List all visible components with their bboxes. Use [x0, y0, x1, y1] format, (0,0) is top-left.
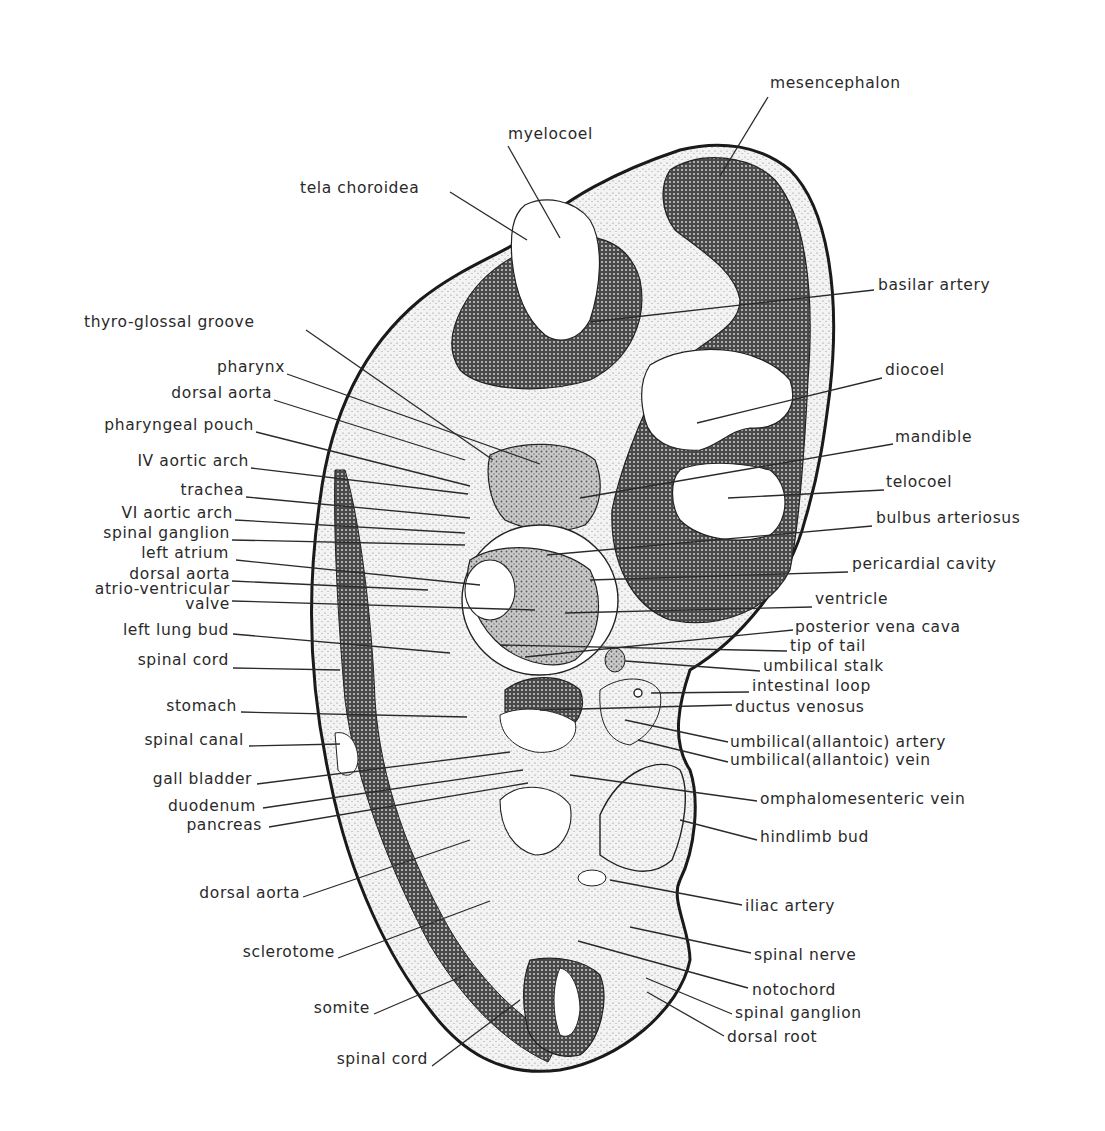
label-basilar-artery: basilar artery	[878, 276, 990, 294]
label-stomach: stomach	[166, 697, 237, 715]
label-dorsal-aorta: dorsal aorta	[171, 384, 272, 402]
label-posterior-vena-cava: posterior vena cava	[795, 618, 961, 636]
label-dorsal-aorta: dorsal aorta	[199, 884, 300, 902]
label-spinal-nerve: spinal nerve	[754, 946, 856, 964]
label-diocoel: diocoel	[885, 361, 945, 379]
label-telocoel: telocoel	[886, 473, 952, 491]
label-spinal-cord: spinal cord	[337, 1050, 428, 1068]
label-thyro-glossal-groove: thyro-glossal groove	[84, 313, 255, 331]
label-iliac-artery: iliac artery	[745, 897, 835, 915]
label-sclerotome: sclerotome	[243, 943, 335, 961]
label-duodenum: duodenum	[168, 797, 256, 815]
label-umbilical-allantoic-artery: umbilical(allantoic) artery	[730, 733, 946, 751]
label-ductus-venosus: ductus venosus	[735, 698, 864, 716]
label-mesencephalon: mesencephalon	[770, 74, 901, 92]
label-umbilical-allantoic-vein: umbilical(allantoic) vein	[730, 751, 931, 769]
label-spinal-ganglion: spinal ganglion	[103, 524, 230, 542]
label-pericardial-cavity: pericardial cavity	[852, 555, 997, 573]
label-left-atrium: left atrium	[141, 544, 229, 562]
intestinal-loop-lumen	[634, 689, 642, 697]
label-ventricle: ventricle	[815, 590, 888, 608]
label-spinal-ganglion: spinal ganglion	[735, 1004, 862, 1022]
label-notochord: notochord	[752, 981, 836, 999]
label-pharynx: pharynx	[217, 358, 285, 376]
label-mandible: mandible	[895, 428, 972, 446]
label-hindlimb-bud: hindlimb bud	[760, 828, 869, 846]
label-pancreas: pancreas	[186, 816, 262, 834]
label-vi-aortic-arch: VI aortic arch	[121, 504, 233, 522]
left-atrium-shape	[465, 560, 515, 620]
embryo-section-figure: tela choroideathyro-glossal groovepharyn…	[0, 0, 1105, 1131]
label-spinal-cord: spinal cord	[138, 651, 229, 669]
label-spinal-canal: spinal canal	[144, 731, 244, 749]
label-myelocoel: myelocoel	[508, 125, 593, 143]
label-intestinal-loop: intestinal loop	[752, 677, 871, 695]
label-dorsal-root: dorsal root	[727, 1028, 817, 1046]
label-gall-bladder: gall bladder	[153, 770, 252, 788]
label-pharyngeal-pouch: pharyngeal pouch	[104, 416, 254, 434]
leader-line-tela-choroidea	[450, 192, 527, 240]
pharynx-region	[488, 444, 600, 531]
label-iv-aortic-arch: IV aortic arch	[137, 452, 249, 470]
label-tip-of-tail: tip of tail	[790, 637, 866, 655]
label-valve: valve	[185, 595, 230, 613]
label-trachea: trachea	[180, 481, 244, 499]
label-left-lung-bud: left lung bud	[123, 621, 229, 639]
label-omphalomesenteric-vein: omphalomesenteric vein	[760, 790, 965, 808]
label-tela-choroidea: tela choroidea	[300, 179, 419, 197]
umbilical-stalk-shape	[605, 648, 625, 672]
label-bulbus-arteriosus: bulbus arteriosus	[876, 509, 1020, 527]
label-umbilical-stalk: umbilical stalk	[763, 657, 884, 675]
label-somite: somite	[314, 999, 370, 1017]
iliac-artery-shape	[578, 870, 606, 886]
